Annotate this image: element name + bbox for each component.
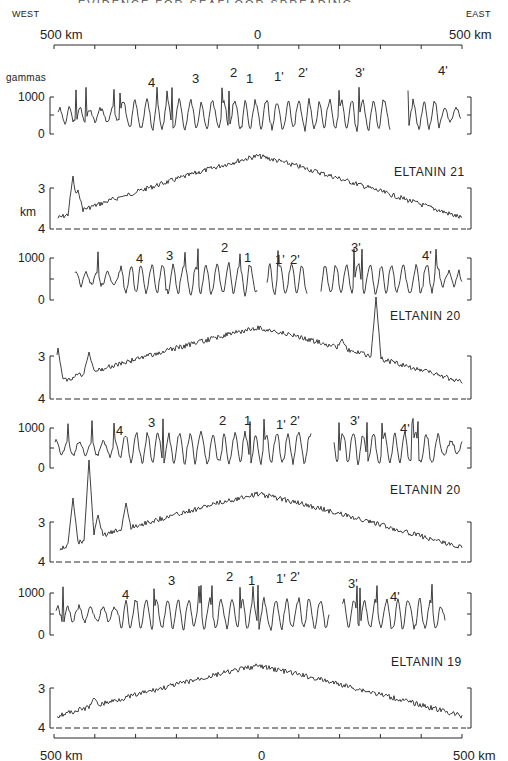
magnetic-anomaly-trace (56, 584, 445, 630)
magnetic-anomaly-trace (58, 87, 461, 131)
magnetic-anomaly-trace (75, 249, 462, 297)
profiles-plot (0, 0, 508, 761)
depth-scale-bracket-right (467, 522, 471, 562)
magnetic-scale-bracket-right (467, 258, 471, 300)
magnetic-scale-bracket-left (50, 258, 54, 300)
magnetic-scale-bracket-right (467, 593, 471, 635)
magnetic-scale-bracket-left (50, 593, 54, 635)
depth-scale-bracket-right (467, 688, 471, 728)
depth-scale-bracket-right (467, 356, 471, 399)
depth-scale-bracket-left (50, 688, 54, 728)
depth-scale-bracket-left (50, 188, 54, 229)
magnetic-anomaly-trace (55, 419, 462, 465)
depth-scale-bracket-left (50, 522, 54, 562)
magnetic-scale-bracket-left (50, 428, 54, 468)
bathymetry-profile-trace (60, 460, 462, 550)
depth-scale-bracket-left (50, 356, 54, 399)
depth-scale-bracket-right (467, 188, 471, 229)
bathymetry-profile-trace (57, 664, 462, 718)
magnetic-scale-bracket-right (467, 97, 471, 134)
bathymetry-profile-trace (58, 154, 462, 218)
bathymetry-profile-trace (57, 297, 462, 383)
magnetic-scale-bracket-right (467, 428, 471, 468)
magnetic-scale-bracket-left (50, 97, 54, 134)
